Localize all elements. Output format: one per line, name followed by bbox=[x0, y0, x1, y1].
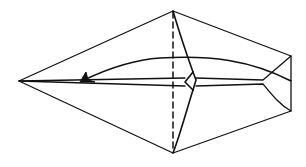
origami-diagram bbox=[0, 0, 306, 167]
left-flap-creases bbox=[19, 78, 185, 86]
arrowhead-icon bbox=[80, 72, 95, 82]
